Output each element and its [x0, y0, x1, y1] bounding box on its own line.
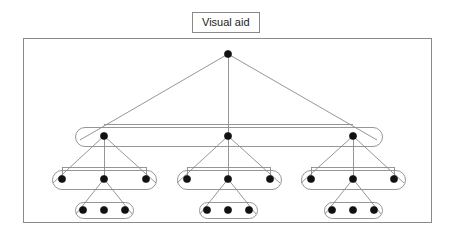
tree-node-b2 [224, 175, 231, 182]
tree-node-a2a [79, 206, 86, 213]
tree-node-r [224, 50, 231, 57]
tree-node-b3 [266, 175, 273, 182]
diagram-frame-rect [24, 39, 432, 223]
tree-node-a3 [142, 175, 149, 182]
tree-node-c3 [390, 175, 397, 182]
tree-node-b1 [183, 175, 190, 182]
tree-node-b [224, 132, 231, 139]
hierarchical-tree-diagram [0, 0, 453, 235]
tree-node-a2c [121, 206, 128, 213]
tree-node-a2b [100, 206, 107, 213]
tree-node-c1 [307, 175, 314, 182]
tree-node-b2b [224, 206, 231, 213]
tree-node-c2 [349, 175, 356, 182]
diagram-frame [24, 39, 432, 223]
tree-node-b2c [245, 206, 252, 213]
tree-node-a2 [100, 175, 107, 182]
tree-node-c [349, 132, 356, 139]
tree-node-b2a [203, 206, 210, 213]
tree-node-a [100, 132, 107, 139]
screenshot-canvas: Visual aid [0, 0, 453, 235]
tree-node-c2a [328, 206, 335, 213]
tree-node-a1 [58, 175, 65, 182]
tree-node-c2c [370, 206, 377, 213]
tree-node-c2b [349, 206, 356, 213]
